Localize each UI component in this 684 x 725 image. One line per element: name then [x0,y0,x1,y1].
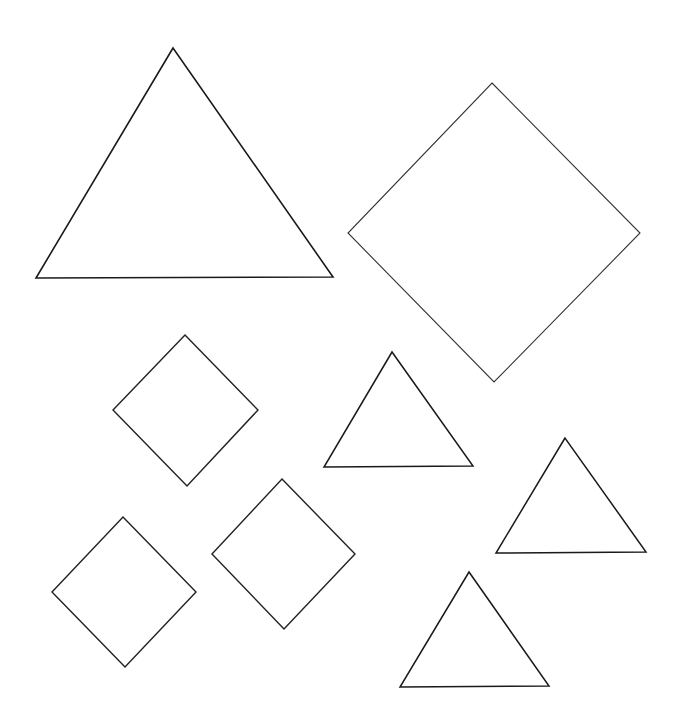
small-diamond-center [212,479,355,629]
small-diamond-upper-left [113,335,258,486]
small-triangle-right [496,438,646,553]
small-triangle-bottom [400,572,549,687]
large-diamond [348,83,640,382]
small-triangle-center [324,352,473,467]
small-diamond-lower-left [52,517,196,667]
shapes-canvas [0,0,684,725]
large-triangle [36,48,333,278]
